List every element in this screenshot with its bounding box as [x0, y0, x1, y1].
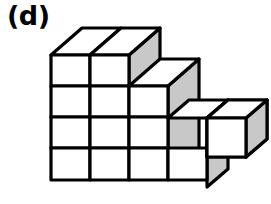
ff-r4c1: [51, 148, 90, 180]
ff-r2c3: [129, 86, 168, 117]
ff-far-cube: [207, 118, 246, 157]
ff-r4c2: [90, 148, 129, 180]
ff-r2c1: [51, 86, 90, 117]
figure-label: (d): [7, 2, 50, 29]
ff-r3c1: [51, 117, 90, 148]
cube-stack-figure: (d) .fc{fill:#ffffff;stroke:#000000;stro…: [0, 0, 271, 204]
ff-r4c3: [129, 148, 168, 180]
ff-r1c1: [51, 55, 90, 86]
ff-r2c2: [90, 86, 129, 117]
ff-r3c2: [90, 117, 129, 148]
ff-r4c4: [168, 148, 207, 180]
ff-r1c2: [90, 55, 129, 86]
ff-r3c3: [129, 117, 168, 148]
